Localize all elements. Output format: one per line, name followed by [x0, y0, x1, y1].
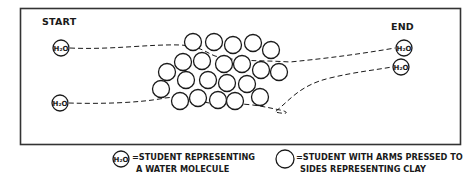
water-molecule-end-bottom: H₂O: [393, 59, 409, 75]
svg-text:H₂O: H₂O: [397, 45, 412, 53]
start-label: START: [42, 16, 76, 27]
svg-text:H₂O: H₂O: [53, 100, 68, 108]
water-molecule-start-bottom: H₂O: [52, 95, 68, 111]
clay-particle-cluster: [153, 34, 288, 110]
legend-water-symbol: H₂O: [113, 151, 129, 167]
end-label: END: [391, 21, 414, 32]
svg-text:H₂O: H₂O: [54, 45, 69, 53]
legend-clay-line1: =STUDENT WITH ARMS PRESSED TO: [296, 151, 463, 163]
legend-clay-symbol: [276, 150, 294, 168]
legend-clay-text: =STUDENT WITH ARMS PRESSED TO SIDES REPR…: [296, 151, 463, 175]
legend-water-line2: A WATER MOLECULE: [132, 163, 255, 175]
legend-water-line1: =STUDENT REPRESENTING: [132, 151, 255, 163]
svg-text:H₂O: H₂O: [394, 64, 409, 72]
svg-text:H₂O: H₂O: [114, 156, 129, 164]
legend-clay-line2: SIDES REPRESENTING CLAY: [296, 163, 463, 175]
water-molecule-start-top: H₂O: [53, 40, 69, 56]
water-molecule-end-top: H₂O: [396, 40, 412, 56]
legend-water-text: =STUDENT REPRESENTING A WATER MOLECULE: [132, 151, 255, 175]
